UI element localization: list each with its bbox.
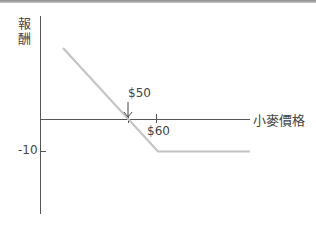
y-axis-label: 報酬: [15, 16, 33, 46]
breakeven-label: $50: [128, 86, 151, 100]
x-axis-label: 小麥價格: [253, 110, 305, 129]
y-tick-label: -10: [18, 143, 38, 157]
strike-label: $60: [147, 124, 170, 138]
